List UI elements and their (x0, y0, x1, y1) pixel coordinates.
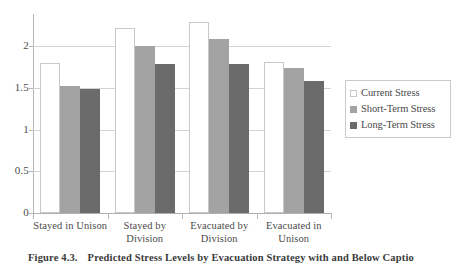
axis-start-tick (33, 213, 34, 219)
plot-area (33, 8, 331, 213)
y-axis-tick-label: 1 (5, 124, 29, 135)
bar-group (257, 8, 332, 213)
bar[interactable] (155, 64, 175, 213)
x-axis-category-label: Stayed byDivision (108, 219, 183, 245)
y-tick-0.5 (29, 171, 33, 172)
bar[interactable] (229, 64, 249, 213)
figure-caption-number: Figure 4.3. (28, 252, 78, 263)
legend-item-current-stress[interactable]: Current Stress (350, 85, 447, 101)
x-axis-category-label-line: Evacuated in (257, 219, 332, 232)
bar[interactable] (135, 46, 155, 213)
bar-group (33, 8, 108, 213)
legend-label-current-stress: Current Stress (361, 87, 419, 99)
x-axis-category-label: Stayed in Unison (33, 219, 108, 232)
y-axis-labels: 00.511.52 (0, 0, 29, 261)
y-axis-tick-label: 2 (5, 40, 29, 51)
legend-swatch-current-stress (350, 90, 357, 97)
bar[interactable] (40, 63, 60, 213)
bar-group (182, 8, 257, 213)
figure-caption-text: Predicted Stress Levels by Evacuation St… (88, 252, 414, 263)
figure-caption: Figure 4.3.Predicted Stress Levels by Ev… (28, 252, 438, 264)
x-axis-category-label: Evacuated byDivision (182, 219, 257, 245)
x-axis-category-label-line: Unison (257, 232, 332, 245)
bar[interactable] (80, 89, 100, 213)
bar-group (108, 8, 183, 213)
x-axis-category-label-line: Division (182, 232, 257, 245)
bar[interactable] (189, 22, 209, 213)
y-tick-1.5 (29, 88, 33, 89)
legend-swatch-long-term-stress (350, 122, 357, 129)
y-axis-tick-label: 1.5 (5, 82, 29, 93)
legend-item-short-term-stress[interactable]: Short-Term Stress (350, 101, 447, 117)
chart-legend: Current Stress Short-Term Stress Long-Te… (345, 80, 451, 138)
x-axis-category-label-line: Stayed in Unison (33, 219, 108, 232)
y-tick-1 (29, 130, 33, 131)
bar[interactable] (264, 62, 284, 213)
legend-label-long-term-stress: Long-Term Stress (361, 119, 435, 131)
bar[interactable] (60, 86, 80, 213)
bar[interactable] (304, 81, 324, 213)
y-tick-2 (29, 46, 33, 47)
bar[interactable] (284, 68, 304, 213)
x-axis-category-label-line: Division (108, 232, 183, 245)
y-axis-tick-label: 0 (5, 207, 29, 218)
x-axis-category-label: Evacuated inUnison (257, 219, 332, 245)
bar[interactable] (209, 39, 229, 214)
legend-swatch-short-term-stress (350, 106, 357, 113)
axis-end-tick (331, 213, 332, 219)
legend-label-short-term-stress: Short-Term Stress (361, 103, 435, 115)
legend-item-long-term-stress[interactable]: Long-Term Stress (350, 117, 447, 133)
x-axis-category-label-line: Stayed by (108, 219, 183, 232)
bar[interactable] (115, 28, 135, 213)
x-axis-category-label-line: Evacuated by (182, 219, 257, 232)
y-axis-tick-label: 0.5 (5, 165, 29, 176)
